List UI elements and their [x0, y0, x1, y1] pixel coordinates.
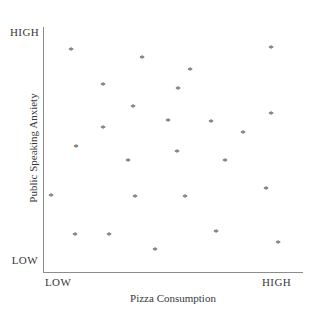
data-point: * [72, 143, 81, 152]
data-point: * [105, 231, 114, 240]
data-point: * [267, 110, 276, 119]
x-axis-title: Pizza Consumption [43, 292, 303, 304]
data-point: * [173, 85, 182, 94]
data-point: * [172, 148, 181, 157]
data-point: * [124, 157, 133, 166]
data-point: * [185, 66, 194, 75]
data-point: * [67, 46, 76, 55]
x-axis-tick-low: LOW [45, 276, 71, 288]
data-point: * [99, 124, 108, 133]
data-point: * [99, 81, 108, 90]
plot-area: ************************* [43, 27, 303, 272]
x-axis-tick-high: HIGH [262, 276, 291, 288]
data-point: * [206, 118, 215, 127]
x-axis-line [43, 272, 303, 273]
y-axis-tick-high: HIGH [10, 26, 38, 38]
data-point: * [151, 246, 160, 255]
data-point: * [70, 231, 79, 240]
data-point: * [131, 193, 140, 202]
data-point: * [267, 44, 276, 53]
scatter-plot-figure: HIGH LOW LOW HIGH Pizza Consumption Publ… [0, 0, 309, 315]
data-point: * [47, 192, 56, 201]
data-point: * [262, 185, 271, 194]
data-point: * [128, 103, 137, 112]
data-point: * [221, 157, 230, 166]
data-point: * [180, 193, 189, 202]
data-point: * [164, 117, 173, 126]
data-point: * [238, 129, 247, 138]
data-point: * [138, 54, 147, 63]
y-axis-title: Public Speaking Anxiety [27, 38, 39, 258]
data-point: * [211, 228, 220, 237]
data-point: * [274, 239, 283, 248]
